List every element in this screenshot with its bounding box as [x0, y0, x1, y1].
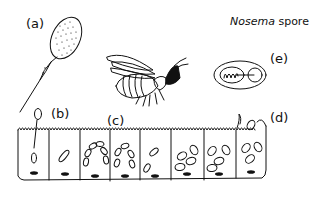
label-e: (e): [270, 52, 288, 65]
nosema-spore-e: [214, 61, 266, 89]
cell-nuclei: [30, 170, 255, 178]
label-b: (b): [51, 107, 69, 120]
diagram-title: Nosema spore: [230, 16, 309, 27]
label-c: (c): [107, 114, 124, 127]
title-genus: Nosema: [230, 15, 275, 28]
honeybee-illustration: [107, 55, 188, 106]
nosema-lifecycle-diagram: Nosema spore (a) (b) (c) (d) (e): [0, 0, 311, 198]
diagram-drawing: [0, 0, 311, 198]
label-d: (d): [270, 111, 288, 124]
label-a: (a): [26, 17, 44, 30]
title-rest: spore: [275, 15, 309, 28]
